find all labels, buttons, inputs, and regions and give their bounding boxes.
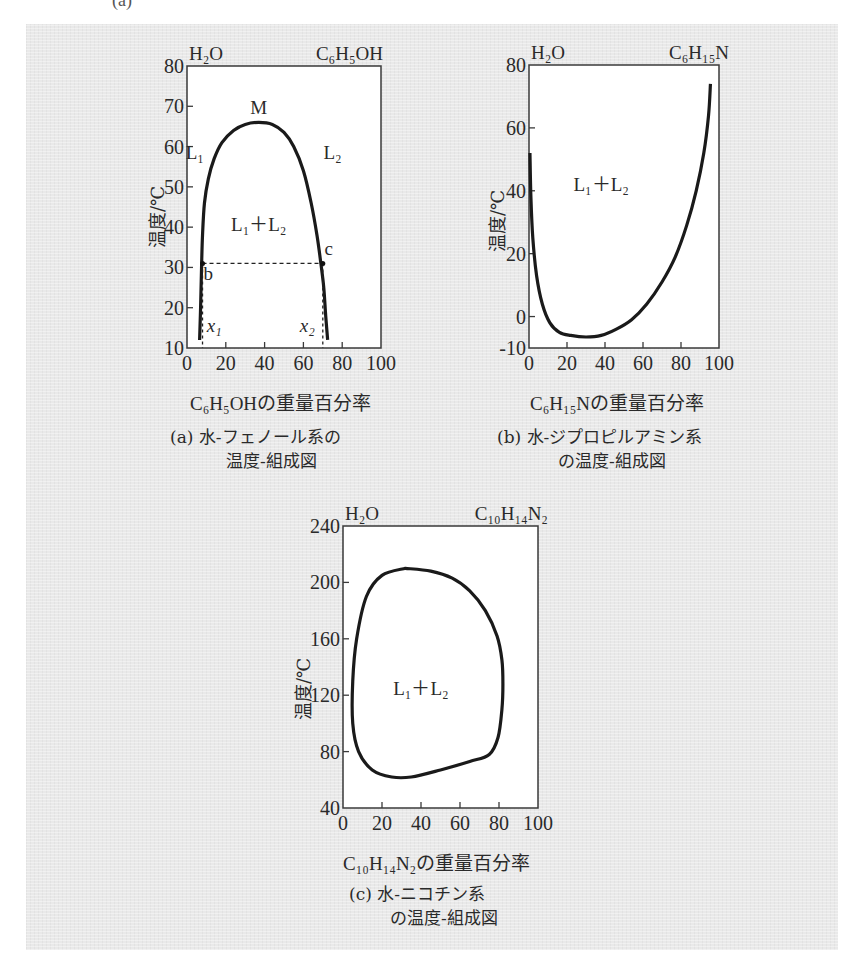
y-tick-label: 10 <box>164 337 184 359</box>
y-tick-label: 80 <box>506 54 526 76</box>
x-tick-label: 100 <box>704 352 734 374</box>
x-tick-label: 40 <box>411 812 431 834</box>
y-tick-label: 80 <box>320 741 340 763</box>
annotation-L₂: L₂ <box>323 142 341 163</box>
y-tick-label: 30 <box>164 256 184 278</box>
plot-frame-b <box>529 65 719 348</box>
chart-b-caption-line1: (b) 水-ジプロピルアミン系 <box>497 425 702 449</box>
x-tick-label: 60 <box>293 352 313 374</box>
left-component-label: H₂O <box>189 43 223 64</box>
chart-c-xlabel: C₁₀H₁₄N₂の重量百分率 <box>343 848 530 875</box>
x-tick-label: 100 <box>366 352 396 374</box>
y-tick-label: 20 <box>506 243 526 265</box>
right-component-label: C₁₀H₁₄N₂ <box>475 503 548 524</box>
plot-frame-a <box>187 66 381 348</box>
region-label: L₁＋L₂ <box>231 214 286 235</box>
y-tick-label: 40 <box>506 180 526 202</box>
chart-b-xlabel: C₆H₁₅Nの重量百分率 <box>530 388 704 415</box>
x-tick-label: 80 <box>671 352 691 374</box>
annotation-M: M <box>250 97 267 118</box>
chart-a-caption-line2: 温度-組成図 <box>226 449 317 473</box>
y-tick-label: 70 <box>164 95 184 117</box>
x-tick-label: 80 <box>332 352 352 374</box>
chart-b-caption-line2: の温度-組成図 <box>558 449 666 473</box>
left-component-label: H₂O <box>531 42 565 63</box>
y-tick-label: 0 <box>516 306 526 328</box>
y-tick-label: 60 <box>506 117 526 139</box>
chart-c-ylabel: 温度/℃ <box>289 658 315 720</box>
x-tick-label: 60 <box>450 812 470 834</box>
annotation-x₂: x₂ <box>299 315 315 336</box>
right-component-label: C₆H₅OH <box>316 43 383 64</box>
region-label: L₁＋L₂ <box>393 678 448 699</box>
left-component-label: H₂O <box>345 503 379 524</box>
x-tick-label: 40 <box>255 352 275 374</box>
y-tick-label: 160 <box>310 628 340 650</box>
annotation-b: b <box>204 263 214 284</box>
y-tick-label: 80 <box>164 55 184 77</box>
x-tick-label: 80 <box>489 812 509 834</box>
x-tick-label: 20 <box>216 352 236 374</box>
annotation-x₁: x₁ <box>206 315 222 336</box>
plot-frame-c <box>343 526 538 808</box>
annotation-c: c <box>324 238 332 259</box>
chart-b-ylabel: 温度/℃ <box>483 190 509 252</box>
x-tick-label: 60 <box>633 352 653 374</box>
y-tick-label: -10 <box>499 337 526 359</box>
y-tick-label: 20 <box>164 297 184 319</box>
right-component-label: C₆H₁₅N <box>669 42 729 63</box>
y-tick-label: 240 <box>310 515 340 537</box>
x-tick-label: 20 <box>557 352 577 374</box>
chart-c-caption-line2: の温度-組成図 <box>390 906 498 930</box>
y-tick-label: 60 <box>164 136 184 158</box>
chart-c-caption-line1: (c) 水-ニコチン系 <box>349 882 485 906</box>
y-tick-label: 200 <box>310 571 340 593</box>
x-tick-label: 40 <box>595 352 615 374</box>
chart-a-caption-line1: (a) 水-フェノール系の <box>170 425 341 449</box>
chart-a: 0204060801001020304050607080H₂OC₆H₅OHL₁＋… <box>0 0 850 970</box>
x-tick-label: 100 <box>523 812 553 834</box>
x-tick-label: 20 <box>372 812 392 834</box>
region-label: L₁＋L₂ <box>573 174 628 195</box>
chart-a-ylabel: 温度/℃ <box>143 186 169 248</box>
point-c <box>320 261 325 266</box>
annotation-L₁: L₁ <box>186 142 204 163</box>
y-tick-label: 40 <box>320 797 340 819</box>
chart-a-xlabel: C₆H₅OHの重量百分率 <box>190 388 371 415</box>
